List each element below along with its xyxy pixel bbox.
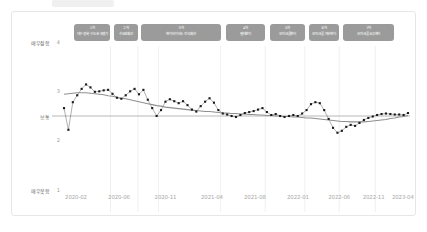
data-point [253,110,255,112]
data-point [173,100,175,102]
data-point [403,114,405,116]
data-point [385,112,387,114]
data-point [239,114,241,116]
x-axis-tick-label: 2022-06 [323,194,355,200]
top-partial-element [52,0,114,7]
data-point [120,98,122,100]
data-point [372,115,374,117]
data-point [261,107,263,109]
data-point [156,115,158,117]
x-axis-tick-label: 2020-02 [60,194,92,200]
wave-label-wave-5[interactable]: 5차오미크론변이 [270,24,304,41]
x-axis-tick-label: 2020-06 [103,194,135,200]
data-point [85,83,87,85]
data-point [116,97,118,99]
covid-response-evaluation-chart [12,12,417,217]
data-point [332,127,334,129]
data-point [279,115,281,117]
wave-description: 변이바이러스 전국확산 [141,31,220,37]
data-point [76,94,78,96]
data-point [129,90,131,92]
data-point [301,112,303,114]
data-point [407,112,409,114]
wave-description: 오미크론변이 [270,31,304,37]
data-point [125,94,127,96]
x-axis-tick-label: 2022-01 [282,194,314,200]
wave-label-wave-4[interactable]: 4차델타변이 [226,24,266,41]
data-point [147,99,149,101]
data-point [275,113,277,115]
x-axis-tick-label: 2021-08 [239,194,271,200]
data-point [151,107,153,109]
y-axis-tick-label: 2 [50,137,60,143]
data-point [394,113,396,115]
data-point [270,114,272,116]
data-point [350,124,352,126]
data-point [222,112,224,114]
data-point [354,125,356,127]
x-axis-tick-label: 2023-04 [387,194,419,200]
y-axis-category-label: 매우못함 [16,187,50,194]
data-point [319,102,321,104]
data-point [398,113,400,115]
x-axis-tick-label: 2021-04 [196,194,228,200]
data-point [266,111,268,113]
data-point [248,111,250,113]
data-point [226,113,228,115]
y-axis-category-label: 보통 [16,113,50,120]
data-point [169,98,171,100]
data-point [389,113,391,115]
data-point [244,112,246,114]
data-point [142,89,144,91]
data-point [98,90,100,92]
wave-label-wave-3[interactable]: 3차변이바이러스 전국확산 [141,24,220,41]
data-point [310,103,312,105]
data-point [358,122,360,124]
data-point [376,114,378,116]
x-axis-tick-label: 2022-11 [358,194,390,200]
data-point [257,109,259,111]
data-point [200,105,202,107]
wave-description: 오미크론 BQ변이 [343,31,394,37]
wave-label-wave-7[interactable]: 7차오미크론 BQ변이 [343,24,394,41]
data-point [345,126,347,128]
data-point [283,116,285,118]
x-axis-tick-label: 2020-11 [149,194,181,200]
data-point [328,118,330,120]
y-axis-tick-label: 4 [50,39,60,45]
data-point [103,89,105,91]
data-point [297,115,299,117]
data-point [231,115,233,117]
data-point [363,119,365,121]
data-point [235,116,237,118]
data-point [160,109,162,111]
data-point [336,132,338,134]
data-point [191,109,193,111]
wave-label-wave-2[interactable]: 2차수도권확산 [114,24,138,41]
data-point [107,89,109,91]
wave-label-wave-6[interactable]: 6차오미크론 하위변이 [309,24,339,41]
data-point [314,101,316,103]
data-point [72,101,74,103]
data-point [138,93,140,95]
data-point [380,113,382,115]
data-point [164,101,166,103]
data-point [182,100,184,102]
data-point [323,109,325,111]
data-point [63,107,65,109]
series-line [64,84,408,132]
wave-label-wave-1[interactable]: 1차대구·경북 수도권 유행기 [74,24,110,41]
data-point [67,129,69,131]
data-point [81,88,83,90]
plot-area: 1차대구·경북 수도권 유행기2차수도권확산3차변이바이러스 전국확산4차델타변… [12,12,415,215]
wave-description: 오미크론 하위변이 [309,31,339,37]
data-point [217,109,219,111]
wave-description: 대구·경북 수도권 유행기 [74,31,110,37]
data-point [367,117,369,119]
data-point [306,109,308,111]
data-point [94,91,96,93]
y-axis-tick-label: 1 [50,187,60,193]
data-point [341,130,343,132]
data-point [292,114,294,116]
chart-card: 1차대구·경북 수도권 유행기2차수도권확산3차변이바이러스 전국확산4차델타변… [11,11,416,216]
